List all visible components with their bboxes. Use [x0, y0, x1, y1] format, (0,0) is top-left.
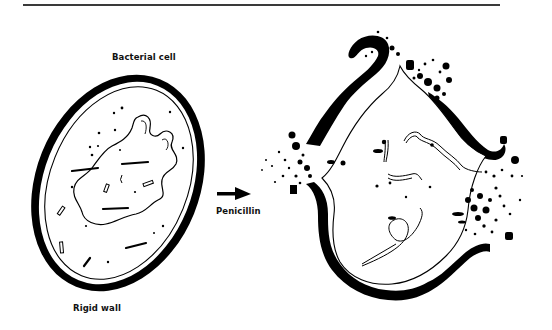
lysed-cell: [261, 31, 523, 301]
label-rigid-wall: Rigid wall: [73, 303, 121, 313]
intact-cell: [0, 48, 236, 317]
label-bacterial-cell: Bacterial cell: [112, 52, 176, 62]
diagram-canvas: [0, 0, 552, 330]
debris-left: [261, 132, 312, 195]
transition-arrow-icon: [217, 187, 251, 200]
label-penicillin: Penicillin: [216, 206, 261, 216]
